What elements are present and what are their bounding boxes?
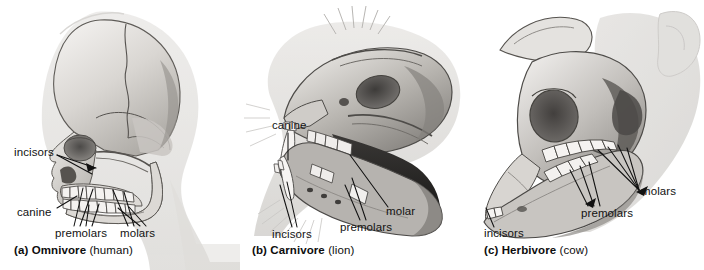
label-a-premolars: premolars <box>55 228 107 240</box>
label-c-incisors: incisors <box>484 228 524 240</box>
label-c-premolars: premolars <box>581 208 633 220</box>
label-b-molar: molar <box>386 206 415 218</box>
label-c-molars: molars <box>641 186 676 198</box>
caption-panel-c: (c) Herbivore (cow) <box>484 245 588 257</box>
label-b-incisors: incisors <box>272 229 312 241</box>
caption-panel-a: (a) Omnivore (human) <box>14 245 133 257</box>
label-a-incisors: incisors <box>14 147 54 159</box>
label-a-canine: canine <box>17 207 52 219</box>
caption-a-paren: (human) <box>89 244 133 256</box>
caption-panel-b: (b) Carnivore (lion) <box>252 245 354 257</box>
cropped-caption-line <box>0 263 704 270</box>
label-b-canine: canine <box>272 120 307 132</box>
caption-b-paren: (lion) <box>328 244 354 256</box>
comparative-dentition-figure: incisors canine premolars molars (a) Omn… <box>0 0 704 270</box>
caption-b-bold: (b) Carnivore <box>252 244 325 256</box>
caption-c-paren: (cow) <box>560 244 589 256</box>
caption-a-bold: (a) Omnivore <box>14 244 86 256</box>
caption-c-bold: (c) Herbivore <box>484 244 556 256</box>
label-b-premolars: premolars <box>340 222 392 234</box>
label-a-molars: molars <box>120 228 155 240</box>
